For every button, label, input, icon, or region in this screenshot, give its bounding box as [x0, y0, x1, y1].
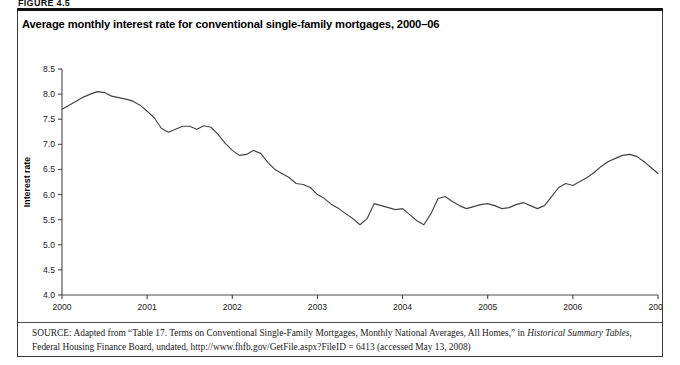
x-axis: 20002001200220032004200520062007 — [52, 295, 663, 312]
x-tick-label: 2002 — [223, 302, 242, 312]
data-line-interest-rate — [62, 92, 658, 225]
source-divider — [18, 322, 662, 323]
source-italic-title: Historical Summary Tables — [527, 328, 629, 338]
x-tick-label: 2001 — [138, 302, 157, 312]
chart-title: Average monthly interest rate for conven… — [22, 18, 439, 30]
x-tick-label: 2006 — [563, 302, 582, 312]
y-axis-title: Interest rate — [22, 157, 32, 207]
y-tick-label: 5.0 — [43, 240, 55, 250]
source-note: SOURCE: Adapted from “Table 17. Terms on… — [32, 327, 650, 354]
data-series-group — [62, 92, 658, 225]
y-tick-label: 6.5 — [43, 164, 55, 174]
x-tick-label: 2003 — [308, 302, 327, 312]
y-tick-label: 4.5 — [43, 265, 55, 275]
source-prefix: SOURCE: — [32, 328, 72, 338]
y-tick-label: 7.0 — [43, 139, 55, 149]
x-tick-label: 2007 — [648, 302, 663, 312]
x-tick-label: 2000 — [52, 302, 71, 312]
source-text-1: Adapted from “Table 17. Terms on Convent… — [72, 328, 528, 338]
y-tick-label: 8.5 — [43, 64, 55, 74]
y-tick-label: 6.0 — [43, 190, 55, 200]
y-axis: 4.04.55.05.56.06.57.07.58.08.5 — [43, 64, 62, 300]
y-tick-label: 8.0 — [43, 89, 55, 99]
figure-label: FIGURE 4.5 — [18, 0, 70, 8]
y-tick-label: 4.0 — [43, 290, 55, 300]
x-tick-label: 2004 — [393, 302, 412, 312]
interest-rate-line-chart: 4.04.55.05.56.06.57.07.58.08.5 200020012… — [18, 55, 663, 313]
y-tick-label: 5.5 — [43, 215, 55, 225]
y-tick-label: 7.5 — [43, 114, 55, 124]
chart-plot-area: 4.04.55.05.56.06.57.07.58.08.5 200020012… — [18, 55, 663, 313]
x-tick-label: 2005 — [478, 302, 497, 312]
